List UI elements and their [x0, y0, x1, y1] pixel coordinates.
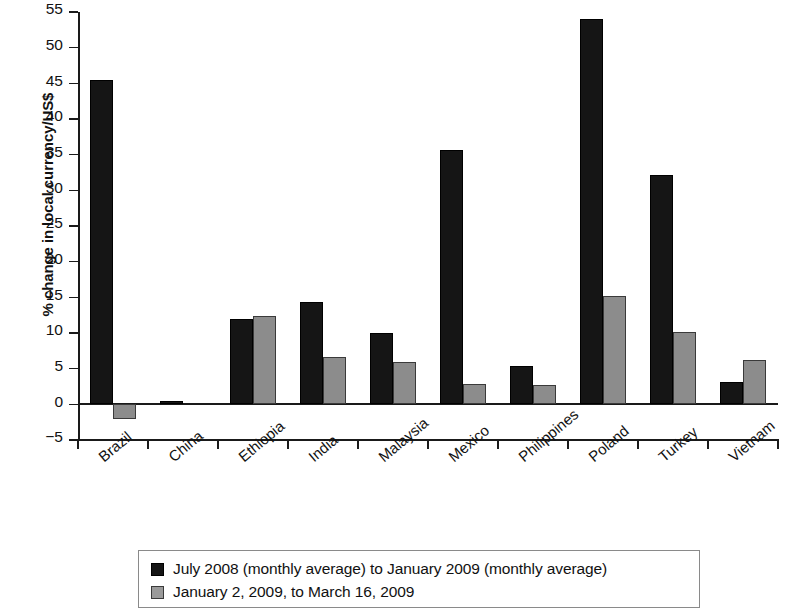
x-axis-tick [217, 439, 219, 449]
legend-swatch-icon-series-1 [151, 563, 164, 576]
y-axis-tick: 45 [69, 83, 78, 85]
bar-vietnam-series-1 [720, 382, 743, 404]
bar-brazil-series-2 [113, 404, 136, 419]
y-axis-tick-label: 5 [54, 357, 63, 375]
bar-india-series-1 [300, 302, 323, 404]
y-axis-tick: 30 [69, 190, 78, 192]
x-axis-tick [147, 439, 149, 449]
y-axis-tick-label: 30 [46, 179, 63, 197]
bar-philippines-series-2 [533, 385, 556, 404]
bar-vietnam-series-2 [743, 360, 766, 404]
bar-mexico-series-1 [440, 150, 463, 405]
bar-malaysia-series-1 [370, 333, 393, 404]
legend-swatch-icon-series-2 [151, 586, 164, 599]
bar-chart: % change in local currency/US$ 555045403… [0, 0, 788, 615]
y-axis-tick-label: 35 [46, 143, 63, 161]
bar-india-series-2 [323, 357, 346, 405]
y-axis-line [78, 12, 80, 440]
legend-item-series-1: July 2008 (monthly average) to January 2… [151, 558, 699, 580]
x-axis-tick [77, 439, 79, 449]
x-axis-tick [427, 439, 429, 449]
y-axis-tick-label: 10 [46, 321, 63, 339]
x-axis-tick [287, 439, 289, 449]
x-axis-tick [497, 439, 499, 449]
y-axis-tick-label: 15 [46, 286, 63, 304]
y-axis-tick-label: 45 [46, 72, 63, 90]
bar-malaysia-series-2 [393, 362, 416, 404]
y-axis-tick: 35 [69, 154, 78, 156]
y-axis-tick-label: 55 [46, 0, 63, 18]
legend: July 2008 (monthly average) to January 2… [138, 550, 700, 608]
y-axis-tick: 5 [69, 368, 78, 370]
y-axis-tick-label: 50 [46, 36, 63, 54]
legend-item-series-2: January 2, 2009, to March 16, 2009 [151, 581, 699, 603]
y-axis-tick: 40 [69, 118, 78, 120]
y-axis-tick: 25 [69, 225, 78, 227]
bar-china-series-1 [160, 401, 183, 405]
bar-poland-series-2 [603, 296, 626, 404]
x-axis-tick [777, 439, 779, 449]
y-axis-tick: 20 [69, 261, 78, 263]
legend-label-series-2: January 2, 2009, to March 16, 2009 [173, 583, 414, 601]
x-axis-tick [637, 439, 639, 449]
plot-area: 5550454035302520151050−5 [78, 12, 778, 440]
x-axis-tick [567, 439, 569, 449]
y-axis-tick-label: −5 [45, 428, 63, 446]
y-axis-tick: 0 [69, 404, 78, 406]
legend-label-series-1: July 2008 (monthly average) to January 2… [173, 560, 607, 578]
bar-turkey-series-1 [650, 175, 673, 404]
y-axis-tick-label: 40 [46, 107, 63, 125]
bar-turkey-series-2 [673, 332, 696, 404]
y-axis-tick-label: 0 [54, 393, 63, 411]
y-axis-tick-label: 25 [46, 214, 63, 232]
y-axis-tick: 10 [69, 332, 78, 334]
bar-ethiopia-series-1 [230, 319, 253, 405]
bar-philippines-series-1 [510, 366, 533, 405]
y-axis-tick: 50 [69, 47, 78, 49]
bar-ethiopia-series-2 [253, 316, 276, 404]
bar-brazil-series-1 [90, 80, 113, 405]
x-axis-tick [357, 439, 359, 449]
bar-poland-series-1 [580, 19, 603, 404]
bar-mexico-series-2 [463, 384, 486, 404]
y-axis-tick: 15 [69, 297, 78, 299]
x-axis-tick [707, 439, 709, 449]
y-axis-tick: 55 [69, 11, 78, 13]
y-axis-tick-label: 20 [46, 250, 63, 268]
